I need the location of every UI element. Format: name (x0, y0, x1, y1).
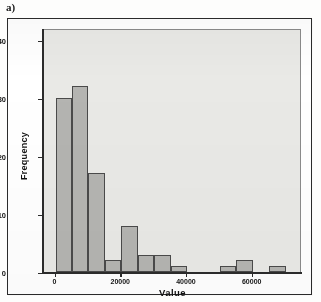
y-tick-label: 20 (0, 152, 6, 161)
histogram-bar (72, 86, 88, 272)
histogram-bar (236, 260, 252, 272)
y-axis-line (42, 29, 44, 273)
x-tick-label: 20000 (111, 278, 130, 285)
histogram-bar (56, 98, 72, 272)
plot-area (43, 29, 301, 273)
histogram-bar (105, 260, 121, 272)
y-tick-mark (38, 99, 43, 100)
y-tick-mark (38, 273, 43, 274)
y-tick-mark (38, 41, 43, 42)
figure-frame: 010203040 0200004000060000 Frequency Val… (7, 18, 312, 295)
y-tick-label: 0 (2, 269, 6, 278)
y-tick-mark (38, 215, 43, 216)
x-tick-mark (186, 272, 187, 277)
x-axis-line (43, 272, 302, 274)
histogram-bar (154, 255, 170, 272)
y-tick-mark (38, 157, 43, 158)
y-tick-label: 40 (0, 36, 6, 45)
bars-container (44, 30, 300, 272)
x-tick-mark (55, 272, 56, 277)
figure-root: a) 010203040 0200004000060000 Frequency … (0, 0, 321, 302)
y-tick-label: 10 (0, 210, 6, 219)
panel-label: a) (6, 1, 15, 13)
x-axis-title: Value (43, 287, 302, 298)
x-tick-label: 0 (53, 278, 57, 285)
x-tick-label: 40000 (176, 278, 195, 285)
histogram-bar (88, 173, 104, 272)
x-tick-mark (252, 272, 253, 277)
x-tick-label: 60000 (242, 278, 261, 285)
histogram-bar (121, 226, 137, 272)
x-tick-mark (120, 272, 121, 277)
histogram-bar (138, 255, 154, 272)
y-tick-label: 30 (0, 94, 6, 103)
y-axis-title: Frequency (19, 96, 29, 216)
histogram-chart: 010203040 0200004000060000 Frequency Val… (8, 19, 313, 296)
